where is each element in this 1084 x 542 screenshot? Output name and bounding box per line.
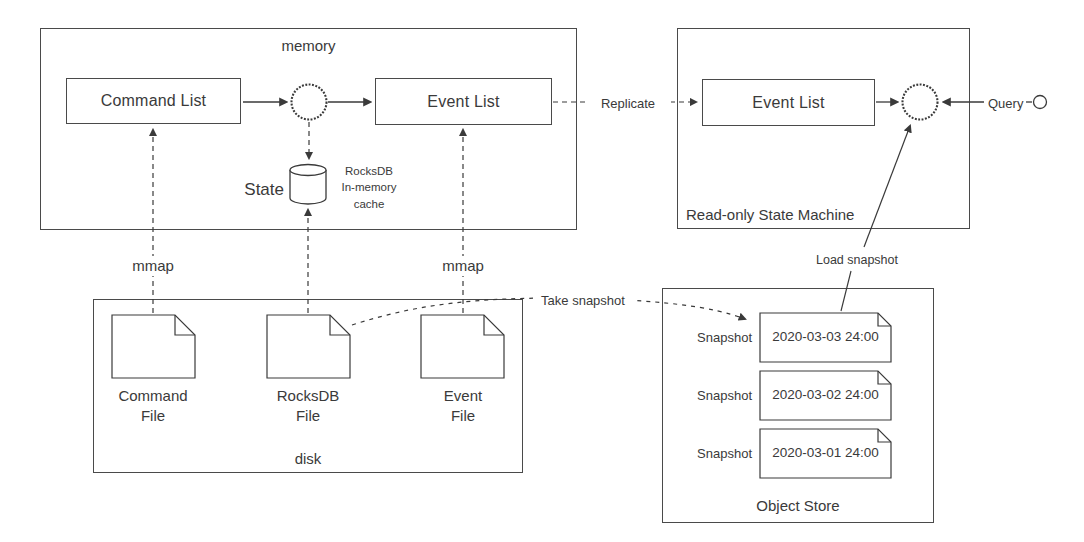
read-only-state-machine-box bbox=[677, 28, 970, 229]
mmap-left-label: mmap bbox=[118, 256, 188, 276]
load-snapshot-label: Load snapshot bbox=[807, 252, 907, 269]
snapshot-2-label: Snapshot bbox=[668, 371, 752, 420]
take-snapshot-label: Take snapshot bbox=[533, 292, 633, 310]
event-file-label: Event File bbox=[413, 386, 513, 427]
snapshot-1-label: Snapshot bbox=[668, 313, 752, 362]
memory-box bbox=[40, 28, 577, 230]
query-label: Query bbox=[988, 95, 1028, 113]
snapshot-1-timestamp: 2020-03-03 24:00 bbox=[760, 313, 891, 362]
command-list-node: Command List bbox=[66, 78, 241, 124]
readonly-event-list-node: Event List bbox=[702, 79, 875, 126]
replicate-label: Replicate bbox=[585, 95, 671, 113]
state-label: State bbox=[222, 179, 284, 202]
rocksdb-file-label: RocksDB File bbox=[258, 386, 358, 427]
architecture-diagram: Command List Event List Event List bbox=[0, 0, 1084, 542]
disk-box-title: disk bbox=[93, 449, 523, 469]
snapshot-3-timestamp: 2020-03-01 24:00 bbox=[760, 429, 891, 478]
readonly-event-list-label: Event List bbox=[752, 94, 824, 112]
state-cache-note: RocksDB In-memory cache bbox=[326, 163, 412, 212]
query-client-circle-icon bbox=[1034, 96, 1047, 109]
command-list-label: Command List bbox=[101, 92, 207, 110]
read-only-state-machine-title: Read-only State Machine bbox=[686, 205, 946, 225]
object-store-title: Object Store bbox=[662, 496, 934, 516]
mmap-right-label: mmap bbox=[428, 256, 498, 276]
event-list-node: Event List bbox=[375, 78, 552, 125]
snapshot-2-timestamp: 2020-03-02 24:00 bbox=[760, 371, 891, 420]
command-file-label: Command File bbox=[103, 386, 203, 427]
snapshot-3-label: Snapshot bbox=[668, 429, 752, 478]
memory-box-title: memory bbox=[40, 36, 577, 56]
event-list-label: Event List bbox=[427, 93, 499, 111]
